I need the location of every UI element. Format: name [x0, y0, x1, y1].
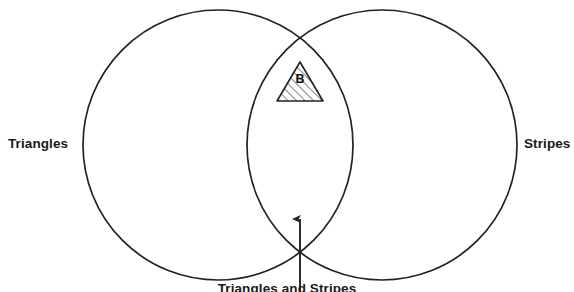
set-circle-stripes [247, 10, 517, 280]
set-label-triangles: Triangles [8, 136, 68, 151]
set-circle-triangles [83, 10, 353, 280]
set-label-stripes: Stripes [524, 136, 570, 151]
venn-diagram-canvas: Triangles Stripes B Triangles and Stripe… [0, 0, 574, 292]
region-letter-b: B [292, 72, 308, 86]
intersection-label: Triangles and Stripes [0, 281, 574, 292]
venn-diagram-svg [0, 0, 574, 292]
